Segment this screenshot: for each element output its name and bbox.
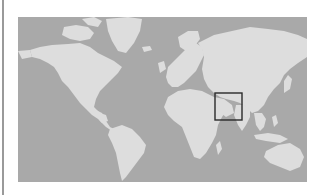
world-map — [18, 17, 307, 182]
world-map-svg — [18, 17, 307, 182]
left-border-rule — [2, 0, 4, 195]
